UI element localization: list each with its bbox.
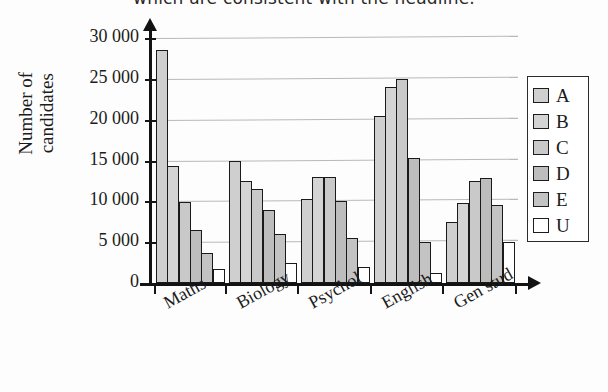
y-axis-title-line-1: Number of [15, 13, 36, 213]
y-axis-tick-label: 10 000 [44, 189, 139, 210]
bar [240, 181, 252, 283]
y-axis-tick-label: 25 000 [44, 67, 139, 88]
legend-item: U [533, 212, 588, 238]
y-axis-line [149, 28, 152, 286]
x-axis-tick [225, 283, 227, 294]
legend-item: D [533, 160, 588, 186]
legend-swatch [533, 88, 549, 103]
legend-item: C [533, 134, 588, 160]
legend: ABCDEU [527, 76, 589, 242]
legend-label: C [556, 138, 569, 157]
bar [396, 79, 408, 283]
y-axis-tick [145, 242, 156, 244]
bar [201, 253, 213, 283]
y-axis-tick [145, 201, 156, 203]
legend-item: A [533, 82, 588, 108]
bar [312, 177, 324, 283]
chart-title: which are consistent with the headline. [0, 0, 608, 8]
bar [408, 158, 420, 283]
legend-swatch [533, 166, 549, 181]
legend-label: E [556, 190, 568, 209]
bar [324, 177, 336, 283]
x-axis-tick [515, 283, 517, 294]
bar [229, 161, 241, 284]
legend-item: E [533, 186, 588, 212]
y-axis-tick [145, 161, 156, 163]
bar [301, 199, 313, 283]
bar [213, 269, 225, 283]
legend-label: U [556, 216, 570, 235]
x-axis-tick [154, 283, 156, 294]
bar-chart: which are consistent with the headline. … [0, 0, 608, 392]
bar [446, 222, 458, 283]
legend-label: A [556, 86, 570, 105]
legend-swatch [533, 218, 549, 233]
y-axis-tick-label: 15 000 [44, 149, 139, 170]
bar [251, 189, 263, 283]
bar [457, 203, 469, 283]
gridline [154, 117, 518, 120]
y-axis-tick [145, 120, 156, 122]
legend-swatch [533, 192, 549, 207]
legend-swatch [533, 114, 549, 129]
y-axis-tick [145, 79, 156, 81]
y-axis-tick-label: 20 000 [44, 108, 139, 129]
y-axis-tick-label: 0 [44, 271, 139, 292]
y-axis-tick-label: 5 000 [44, 230, 139, 251]
bar [179, 202, 191, 283]
bar [156, 50, 168, 283]
plot-area [154, 38, 518, 283]
y-axis-tick-label: 30 000 [44, 26, 139, 47]
x-axis-tick [297, 283, 299, 294]
x-axis-tick [442, 283, 444, 294]
bar [480, 178, 492, 283]
gridline [154, 36, 518, 39]
bar [385, 87, 397, 283]
bar [335, 201, 347, 283]
legend-item: B [533, 108, 588, 134]
bar [469, 181, 481, 283]
x-axis-tick [370, 283, 372, 294]
legend-swatch [533, 140, 549, 155]
gridline [154, 158, 518, 161]
legend-label: B [556, 112, 569, 131]
y-axis-arrow-icon [143, 18, 157, 31]
bar [167, 166, 179, 283]
y-axis-tick [145, 38, 156, 40]
legend-label: D [556, 164, 570, 183]
bar [374, 116, 386, 283]
x-axis-arrow-icon [528, 276, 541, 290]
gridline [154, 77, 518, 80]
